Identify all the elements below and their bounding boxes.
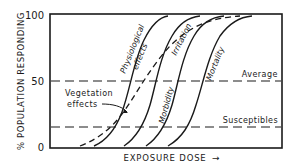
susceptibles-label: Susceptibles xyxy=(223,116,278,125)
vegetation-label-line2: effects xyxy=(67,100,98,109)
x-axis-arrow-icon: → xyxy=(212,153,220,163)
y-axis-label: % POPULATION RESPONDING xyxy=(16,12,26,150)
vegetation-effects-curve xyxy=(80,16,240,146)
ytick-50: 50 xyxy=(31,76,44,87)
morbidity-label: Morbidity xyxy=(157,86,175,125)
vegetation-label-line1: Vegetation xyxy=(65,89,113,98)
irritation-label: Irritation xyxy=(170,22,194,57)
ytick-100: 100 xyxy=(25,10,44,21)
average-label: Average xyxy=(242,70,278,79)
dose-response-chart: 100 50 0 % POPULATION RESPONDING EXPOSUR… xyxy=(0,0,299,164)
x-axis-label: EXPOSURE DOSE xyxy=(123,153,206,163)
ytick-0: 0 xyxy=(38,142,44,153)
